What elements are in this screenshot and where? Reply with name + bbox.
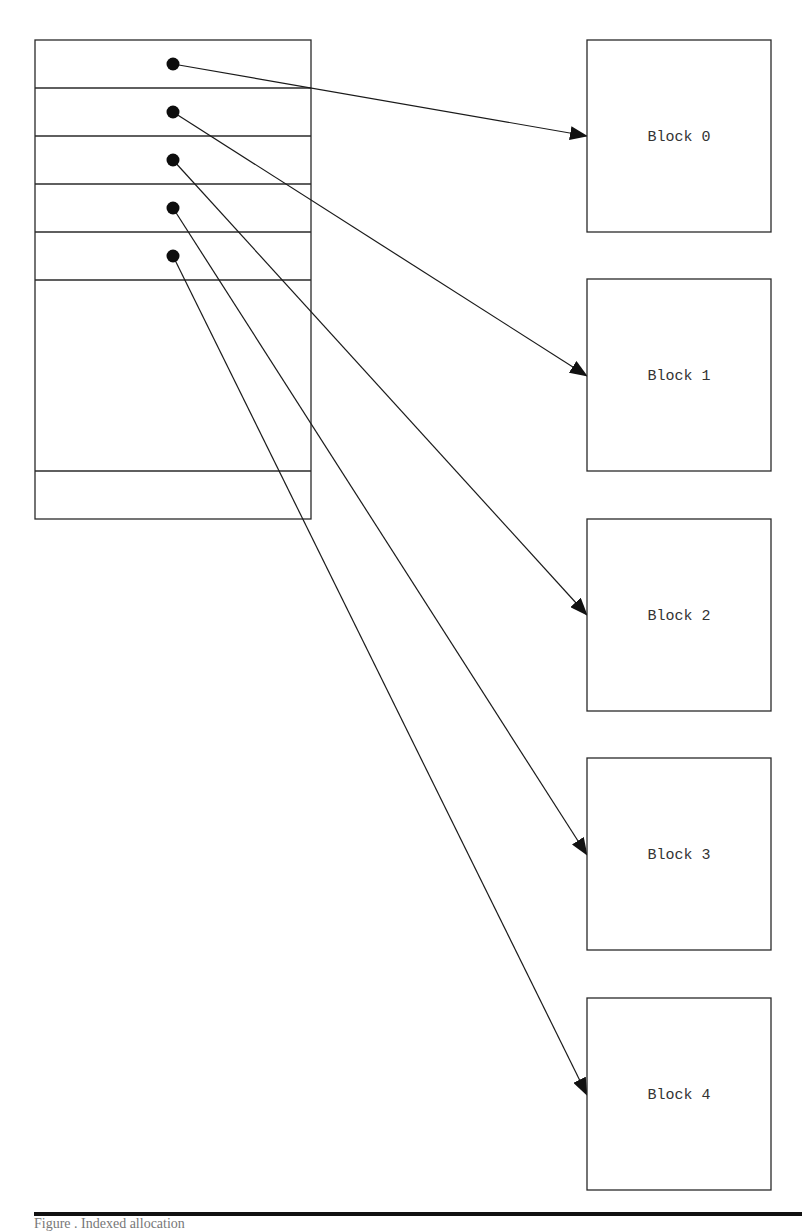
pointer-arrow-4: [173, 256, 587, 1095]
pointer-dot-icon: [167, 202, 180, 215]
pointer-dot-icon: [167, 58, 180, 71]
data-blocks: Block 0Block 1Block 2Block 3Block 4: [587, 40, 771, 1190]
data-block-0: Block 0: [587, 40, 771, 232]
data-block-label: Block 3: [647, 847, 710, 864]
data-block-1: Block 1: [587, 279, 771, 471]
data-block-2: Block 2: [587, 519, 771, 711]
pointer-arrow-3: [173, 208, 587, 855]
pointer-dot-icon: [167, 250, 180, 263]
data-block-label: Block 4: [647, 1087, 710, 1104]
data-block-label: Block 1: [647, 368, 710, 385]
pointer-dot-icon: [167, 106, 180, 119]
pointer-dot-icon: [167, 154, 180, 167]
data-block-4: Block 4: [587, 998, 771, 1190]
data-block-label: Block 2: [647, 608, 710, 625]
data-block-label: Block 0: [647, 129, 710, 146]
figure-caption: Figure . Indexed allocation: [34, 1216, 185, 1232]
data-block-3: Block 3: [587, 758, 771, 950]
